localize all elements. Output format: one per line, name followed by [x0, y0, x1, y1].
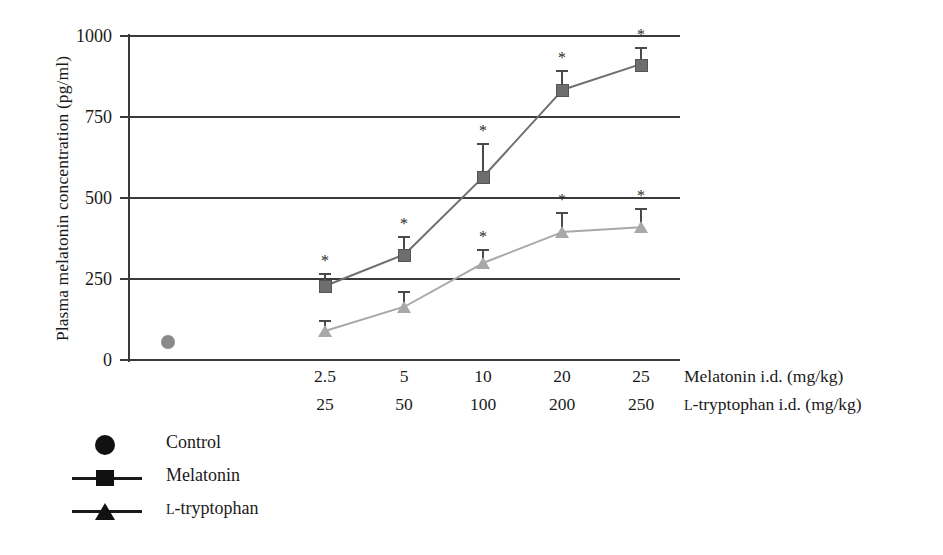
square-data-marker [319, 280, 332, 293]
series-line-segment [404, 262, 484, 307]
triangle-data-marker [555, 226, 569, 238]
legend-label-tryptophan-rest: -tryptophan [175, 498, 259, 518]
error-bar-cap [319, 273, 331, 275]
gridline-750 [128, 116, 680, 118]
square-data-marker [398, 249, 411, 262]
square-data-marker [477, 171, 490, 184]
y-tick-250 [120, 278, 128, 280]
legend-label-control: Control [166, 432, 221, 453]
y-tick-750 [120, 116, 128, 118]
series-line-segment [325, 306, 405, 332]
gridline-500 [128, 197, 680, 199]
error-bar-cap [556, 212, 568, 214]
legend: Control Melatonin L-tryptophan [70, 432, 390, 531]
y-tick-1000 [120, 35, 128, 37]
triangle-data-marker [397, 301, 411, 313]
x-tick-label: 100 [448, 394, 518, 415]
significance-marker: * [476, 229, 490, 245]
triangle-data-marker [318, 325, 332, 337]
legend-label-tryptophan-prefix: L [166, 502, 175, 517]
error-bar-cap [319, 320, 331, 322]
legend-item-tryptophan: L-tryptophan [70, 498, 390, 531]
y-tick-label-250: 250 [52, 270, 112, 288]
series-line-segment [403, 176, 483, 255]
x-tick-label: 2.5 [290, 366, 360, 387]
square-data-marker [556, 84, 569, 97]
series-line-segment [483, 231, 563, 264]
series-line-segment [325, 254, 405, 287]
y-axis-tick-labels: 02505007501000 [48, 0, 112, 400]
x-tick-label: 250 [606, 394, 676, 415]
x-tick-label: 200 [527, 394, 597, 415]
significance-marker: * [555, 50, 569, 66]
gridline-0 [128, 359, 680, 361]
gridline-250 [128, 278, 680, 280]
series-line-segment [482, 90, 562, 178]
series-line-segment [562, 226, 641, 233]
y-axis-line [128, 34, 130, 362]
x-tick-label: 25 [290, 394, 360, 415]
error-bar-cap [635, 47, 647, 49]
y-tick-label-1000: 1000 [52, 27, 112, 45]
y-tick-500 [120, 197, 128, 199]
circle-data-marker [161, 335, 175, 349]
error-bar-cap [477, 143, 489, 145]
triangle-data-marker [476, 257, 490, 269]
significance-marker: * [634, 27, 648, 43]
series-line-segment [562, 64, 642, 92]
legend-label-tryptophan: L-tryptophan [166, 498, 259, 519]
x-axis-caption: L-tryptophan i.d. (mg/kg) [684, 394, 862, 415]
x-tick-label: 50 [369, 394, 439, 415]
error-bar-cap [398, 236, 410, 238]
y-tick-0 [120, 359, 128, 361]
circle-marker-icon [70, 432, 144, 458]
error-bar-cap [477, 249, 489, 251]
square-data-marker [635, 59, 648, 72]
triangle-marker-icon [70, 498, 144, 524]
significance-marker: * [555, 192, 569, 208]
x-axis-row-tryptophan: 2550100200250L-tryptophan i.d. (mg/kg) [0, 394, 943, 418]
figure-root: Plasma melatonin concentration (pg/ml) 0… [0, 0, 943, 555]
x-tick-label: 5 [369, 366, 439, 387]
gridline-1000 [128, 35, 680, 37]
significance-marker: * [318, 253, 332, 269]
y-tick-label-500: 500 [52, 189, 112, 207]
significance-marker: * [476, 123, 490, 139]
error-bar-cap [635, 208, 647, 210]
y-tick-label-750: 750 [52, 108, 112, 126]
x-tick-label: 20 [527, 366, 597, 387]
significance-marker: * [634, 188, 648, 204]
legend-item-control: Control [70, 432, 390, 465]
x-axis-row-melatonin: 2.55102025Melatonin i.d. (mg/kg) [0, 366, 943, 390]
significance-marker: * [397, 216, 411, 232]
x-axis-caption: Melatonin i.d. (mg/kg) [684, 366, 843, 387]
square-marker-icon [70, 465, 144, 491]
x-tick-label: 25 [606, 366, 676, 387]
error-bar-cap [398, 291, 410, 293]
triangle-data-marker [634, 221, 648, 233]
error-bar-cap [556, 70, 568, 72]
legend-label-melatonin: Melatonin [166, 465, 240, 486]
x-axis-caption-rest: -tryptophan i.d. (mg/kg) [693, 394, 862, 414]
legend-item-melatonin: Melatonin [70, 465, 390, 498]
x-tick-label: 10 [448, 366, 518, 387]
x-axis-caption-prefix: L [684, 398, 693, 413]
